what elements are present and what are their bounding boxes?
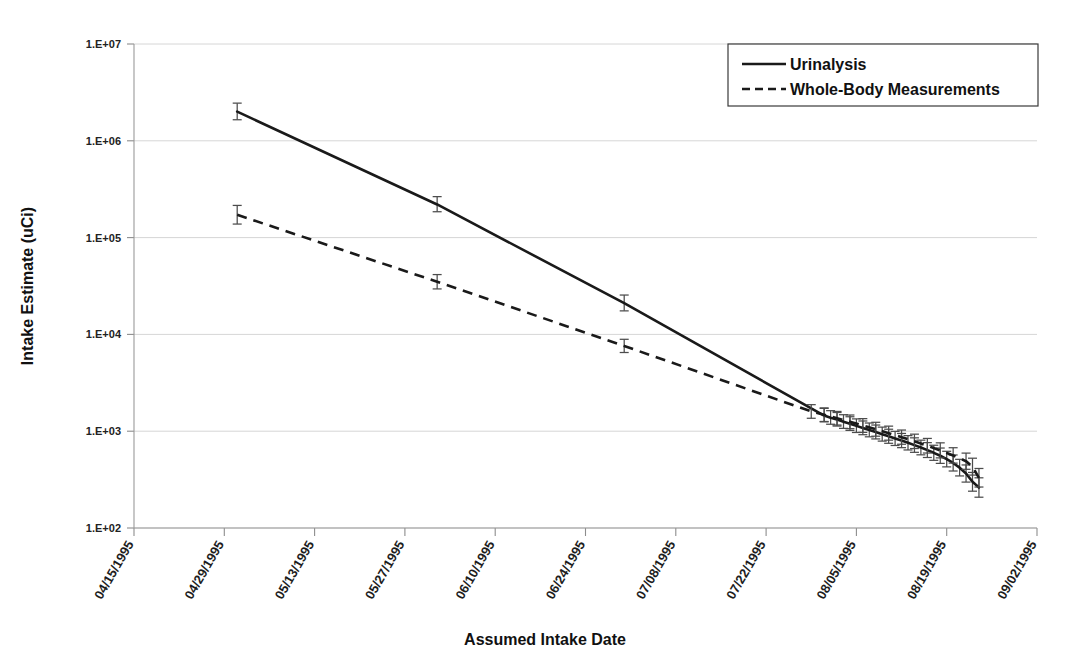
- legend-label-urinalysis: Urinalysis: [790, 56, 867, 73]
- chart-container: 1.E+071.E+061.E+051.E+041.E+031.E+02 04/…: [0, 0, 1091, 669]
- y-axis-title: Intake Estimate (uCi): [19, 207, 36, 365]
- y-tick-label: 1.E+02: [86, 522, 121, 534]
- y-tick-label: 1.E+06: [86, 135, 121, 147]
- chart-legend: Urinalysis Whole-Body Measurements: [728, 44, 1038, 106]
- x-axis-title: Assumed Intake Date: [464, 631, 626, 648]
- y-tick-label: 1.E+07: [86, 38, 121, 50]
- intake-estimate-chart: 1.E+071.E+061.E+051.E+041.E+031.E+02 04/…: [0, 0, 1091, 669]
- legend-label-whole-body: Whole-Body Measurements: [790, 81, 1000, 98]
- y-tick-label: 1.E+05: [86, 232, 121, 244]
- y-tick-label: 1.E+03: [86, 425, 121, 437]
- y-tick-label: 1.E+04: [86, 328, 122, 340]
